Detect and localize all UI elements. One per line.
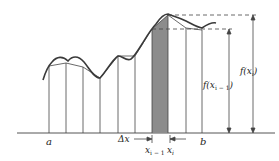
label-delta-x: Δx <box>117 134 130 144</box>
label-x-i: xi <box>167 145 174 156</box>
function-curve <box>43 14 216 80</box>
label-b: b <box>200 136 206 147</box>
partition-lines <box>49 15 202 133</box>
shaded-trapezoid <box>152 15 168 133</box>
label-f-xi: f(xi) <box>239 66 258 77</box>
label-a: a <box>46 136 52 147</box>
trapezoid-tops <box>49 15 202 78</box>
label-x-i-minus-1: xi − 1 <box>145 145 165 156</box>
label-f-xi-minus-1: f(xi − 1) <box>202 80 234 91</box>
trapezoid-rule-diagram: a b Δx xi − 1 xi f(xi) f(xi − 1) <box>0 0 279 161</box>
delta-x-arrows <box>134 135 186 143</box>
